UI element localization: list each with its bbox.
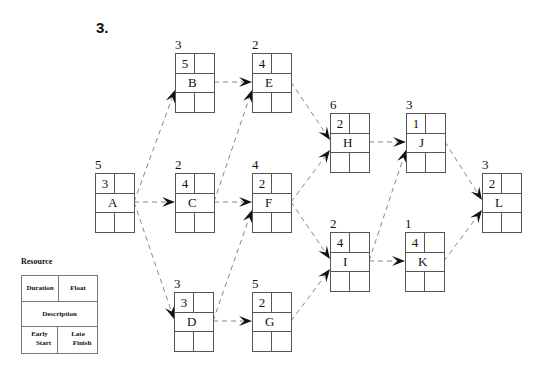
duration-cell: 4 — [331, 233, 350, 252]
duration-cell: 2 — [483, 174, 502, 193]
float-cell — [272, 293, 291, 312]
row-start-finish — [253, 213, 291, 232]
late-finish-cell — [426, 153, 445, 172]
resource-value: 5 — [252, 276, 259, 292]
early-start-cell — [331, 272, 350, 291]
row-start-finish — [176, 93, 214, 112]
row-duration-float: 5 — [176, 54, 214, 74]
row-duration-float: 4 — [331, 233, 369, 253]
duration-cell: 2 — [253, 174, 272, 193]
row-description: I — [331, 253, 369, 272]
arrowhead-icon — [243, 210, 252, 224]
arrow-f-i — [291, 202, 325, 252]
duration-cell: 3 — [175, 293, 194, 312]
early-start-cell — [253, 213, 272, 232]
legend-row-bottom: Early Start Late Finish — [22, 327, 97, 353]
row-duration-float: 2 — [253, 293, 291, 313]
activity-node-i: 24I — [330, 232, 369, 291]
arrow-k-l — [444, 217, 477, 261]
row-start-finish — [175, 332, 213, 351]
late-finish-cell — [195, 213, 214, 232]
row-start-finish — [483, 213, 521, 232]
row-start-finish — [176, 213, 214, 232]
late-finish-cell — [272, 93, 291, 112]
description-cell: A — [96, 194, 134, 212]
arrowhead-icon — [318, 150, 330, 163]
legend-late-label: Late — [59, 330, 97, 339]
activity-node-d: 33D — [174, 292, 213, 351]
arrowhead-icon — [166, 90, 175, 104]
early-start-cell — [176, 213, 195, 232]
row-start-finish — [253, 332, 291, 351]
resource-value: 3 — [482, 157, 489, 173]
legend-finish-label: Finish — [59, 339, 97, 348]
duration-cell: 2 — [331, 114, 350, 133]
duration-cell: 4 — [176, 174, 195, 193]
legend-float: Float — [59, 276, 97, 301]
row-start-finish — [253, 93, 291, 112]
activity-box: 3D — [174, 292, 214, 352]
arrowhead-icon — [471, 186, 482, 200]
early-start-cell — [253, 332, 272, 351]
legend-duration: Duration — [22, 276, 59, 301]
resource-value: 1 — [405, 216, 412, 232]
legend-late-finish: Late Finish — [59, 327, 97, 353]
early-start-cell — [175, 332, 194, 351]
early-start-cell — [483, 213, 502, 232]
float-cell — [350, 233, 369, 252]
late-finish-cell — [350, 272, 369, 291]
description-cell: G — [253, 313, 291, 331]
description-cell: C — [176, 194, 214, 212]
early-start-cell — [253, 93, 272, 112]
description-cell: L — [483, 194, 521, 212]
arrowhead-icon — [239, 77, 252, 87]
late-finish-cell — [195, 93, 214, 112]
row-duration-float: 3 — [175, 293, 213, 313]
activity-node-j: 31J — [406, 113, 445, 172]
arrow-a-d — [134, 202, 171, 310]
activity-box: 2H — [330, 113, 370, 173]
late-finish-cell — [272, 213, 291, 232]
float-cell — [194, 293, 213, 312]
resource-value: 2 — [330, 216, 337, 232]
arrow-e-h — [291, 82, 325, 133]
resource-value: 3 — [174, 276, 181, 292]
row-description: J — [407, 134, 445, 153]
activity-node-k: 14K — [405, 232, 444, 291]
activity-box: 2F — [252, 173, 292, 233]
activity-box: 2G — [252, 292, 292, 352]
early-start-cell — [96, 213, 115, 232]
duration-cell: 3 — [96, 174, 115, 193]
legend-box: Duration Float Description Early Start L… — [21, 275, 98, 354]
row-start-finish — [406, 272, 444, 291]
activity-box: 4K — [405, 232, 445, 292]
resource-value: 6 — [330, 97, 337, 113]
duration-cell: 2 — [253, 293, 272, 312]
activity-node-f: 42F — [252, 173, 291, 232]
description-cell: I — [331, 253, 369, 271]
activity-node-c: 24C — [175, 173, 214, 232]
legend-early-start: Early Start — [22, 327, 58, 353]
row-duration-float: 4 — [253, 54, 291, 74]
arrowhead-icon — [239, 197, 252, 207]
float-cell — [272, 54, 291, 73]
activity-node-e: 24E — [252, 53, 291, 112]
float-cell — [195, 174, 214, 193]
activity-node-b: 35B — [175, 53, 214, 112]
legend-description: Description — [22, 302, 97, 327]
duration-cell: 4 — [406, 233, 425, 252]
activity-box: 4C — [175, 173, 215, 233]
row-description: D — [175, 313, 213, 332]
row-start-finish — [96, 213, 134, 232]
legend-start-label: Start — [22, 339, 57, 348]
float-cell — [425, 233, 444, 252]
arrowhead-icon — [393, 137, 406, 147]
arrowhead-icon — [392, 256, 405, 266]
resource-value: 4 — [252, 157, 259, 173]
resource-value: 3 — [175, 37, 182, 53]
late-finish-cell — [272, 332, 291, 351]
activity-box: 4I — [330, 232, 370, 292]
arrow-j-l — [445, 142, 477, 192]
late-finish-cell — [425, 272, 444, 291]
description-cell: K — [406, 253, 444, 271]
